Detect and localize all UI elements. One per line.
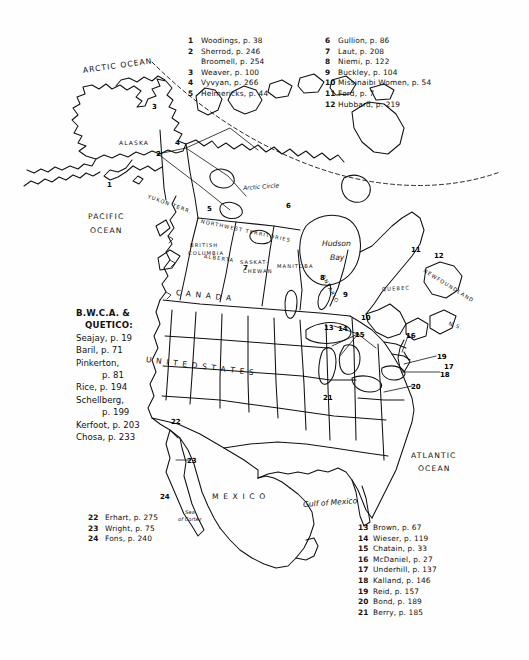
map-label-hudson-bay-2: Bay [330,253,344,262]
bwca-entry: Pinkerton, [76,357,140,369]
usa-canada-border-49th [163,300,350,316]
legend-entry-number: 19 [358,587,373,598]
bwca-entry: Schellberg, [76,394,140,406]
map-marker-22: 22 [171,418,181,426]
map-marker-10: 10 [361,314,371,322]
map-label-pacific-ocean-line1: PACIFIC [88,212,124,221]
legend-entry-number: 7 [325,47,338,58]
legend-entry-text: Reid, p. 157 [373,587,419,598]
legend-entry: 7Laut, p. 208 [325,47,431,58]
legend-entry-number: 20 [358,597,373,608]
border-manitoba-ontario [298,250,302,310]
gulf-coast-mexico [258,476,290,488]
bwca-entry: Rice, p. 194 [76,381,140,393]
legend-entry: 17Underhill, p. 137 [358,565,437,576]
map-marker-17: 17 [444,363,454,371]
legend-entry: 15Chatain, p. 33 [358,544,437,555]
map-marker-19: 19 [437,353,447,361]
map-marker-20: 20 [411,383,421,391]
legend-entry-number: 18 [358,576,373,587]
arctic-island-b [298,74,324,93]
map-label-alaska: ALASKA [119,139,149,146]
legend-entry-text: Bond, p. 189 [373,597,422,608]
legend-entry-text: Sherrod, p. 246 [201,47,260,58]
map-marker-21: 21 [323,394,333,402]
legend-entry: 8Niemi, p. 122 [325,57,431,68]
legend-entry-text: Laut, p. 208 [338,47,384,58]
legend-entry-text: Helmericks, p. 44 [201,89,268,100]
bwca-quetico-list: B.W.C.A. & QUETICO: Seajay, p. 19Baril, … [76,307,140,443]
legend-entry-number: 9 [325,68,338,79]
bwca-entry: Baril, p. 71 [76,344,140,356]
legend-entry-text: Niemi, p. 122 [338,57,390,68]
gulf-st-lawrence [366,304,406,338]
legend-entry-text: Weaver, p. 100 [201,68,259,79]
legend-entry-number: 3 [188,68,201,79]
legend-entry-number: 8 [325,57,338,68]
legend-entry-number: 15 [358,544,373,555]
state-grid-v9 [378,344,384,460]
legend-entry: 16McDaniel, p. 27 [358,555,437,566]
map-label-pacific-ocean-line2: OCEAN [90,226,122,235]
lake-winnipeg [285,290,297,318]
state-grid-h4 [224,442,388,456]
bwca-entry-list: Seajay, p. 19Baril, p. 71Pinkerton,p. 81… [76,332,140,444]
legend-entry-number: 22 [88,513,105,524]
map-marker-24: 24 [160,493,170,501]
legend-entry: Broomell, p. 254 [188,57,268,68]
map-marker-9: 9 [343,291,348,299]
legend-entry-text: Erhart, p. 275 [105,513,158,524]
legend-entry: 23Wright, p. 75 [88,524,158,535]
lake-erie [352,376,382,392]
legend-entry-text: Vyvyan, p. 266 [201,78,259,89]
map-label-sea-of-cortez-2: of Cortez [178,516,202,522]
state-grid-v1 [166,310,172,400]
state-grid-v2 [190,312,196,404]
usa-mexico-border [152,418,258,478]
legend-entry-text: Buckley, p. 104 [338,68,398,79]
legend-entry: 5Helmericks, p. 44 [188,89,268,100]
map-marker-16: 16 [406,332,416,340]
map-label-mexico: M E X I C O [212,492,266,501]
legend-entry-number: 11 [325,89,338,100]
legend-entry: 18Kalland, p. 146 [358,576,437,587]
legend-entry-text: Missinaibi Women, p. 54 [338,78,431,89]
legend-entry: 4Vyvyan, p. 266 [188,78,268,89]
alaska-bristol-bay [133,166,162,171]
map-label-manitoba: MANITOBA [277,263,314,269]
map-marker-13: 13 [324,324,334,332]
legend-entry: 14Wieser, p. 119 [358,534,437,545]
legend-bottom-right: 13Brown, p. 6714Wieser, p. 11915Chatain,… [358,523,437,618]
legend-entry-text: Wieser, p. 119 [373,534,428,545]
alaska-outline [72,79,186,159]
alaska-south-coast [27,159,96,173]
state-grid-v6 [300,320,306,430]
legend-entry: 11Ford, p. 7 [325,89,431,100]
map-marker-14: 14 [338,325,348,333]
legend-entry-number: 21 [358,608,373,619]
map-marker-12: 12 [434,252,444,260]
legend-top-left: 1Woodings, p. 382Sherrod, p. 246Broomell… [188,36,268,100]
legend-entry-text: Kalland, p. 146 [373,576,431,587]
legend-entry-number: 13 [358,523,373,534]
legend-entry: 10Missinaibi Women, p. 54 [325,78,431,89]
legend-entry-text: Underhill, p. 137 [373,565,437,576]
legend-entry: 22Erhart, p. 275 [88,513,158,524]
canada-arctic-coast [186,140,344,162]
legend-entry-text: Wright, p. 75 [105,524,155,535]
mexico-west-coast [220,528,296,568]
state-grid-h1 [165,336,328,348]
legend-entry-text: Ford, p. 7 [338,89,374,100]
usa-gulf-coast [258,468,372,518]
map-marker-4: 4 [175,139,180,147]
map-marker-15: 15 [355,331,365,339]
bwca-entry: Kerfoot, p. 203 [76,419,140,431]
state-grid-v3 [220,314,222,408]
legend-entry-text: Woodings, p. 38 [201,36,263,47]
bc-coast [160,196,176,300]
map-label-british-columbia-1: BRITISH [190,242,218,248]
legend-entry-number: 12 [325,100,338,111]
map-marker-1: 1 [107,181,112,189]
map-page: ARCTIC OCEANPACIFICOCEANATLANTICOCEANALA… [0,0,529,660]
legend-entry-number: 6 [325,36,338,47]
